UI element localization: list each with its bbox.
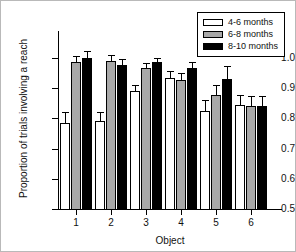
- legend-swatch-icon: [203, 43, 223, 50]
- error-bar-cap: [143, 63, 150, 64]
- bar: [117, 65, 127, 210]
- x-axis-tick-label: 5: [206, 217, 226, 228]
- error-bar-stem: [65, 112, 66, 123]
- bar: [187, 68, 197, 210]
- bar: [106, 61, 116, 210]
- x-axis-tick: [181, 210, 182, 215]
- x-axis-tick-label: 1: [66, 217, 86, 228]
- error-bar-cap: [213, 85, 220, 86]
- error-bar-cap: [248, 106, 255, 107]
- x-axis-tick: [111, 210, 112, 215]
- bar: [222, 79, 232, 210]
- error-bar-cap: [108, 55, 115, 56]
- error-bar-cap: [97, 121, 104, 122]
- bar: [60, 123, 70, 210]
- error-bar-stem: [262, 96, 263, 106]
- legend-item-label: 8-10 months: [228, 42, 278, 51]
- error-bar-cap: [73, 62, 80, 63]
- bar: [211, 95, 221, 210]
- error-bar-stem: [227, 66, 228, 79]
- bar: [200, 111, 210, 210]
- legend-swatch-icon: [203, 31, 223, 38]
- error-bar-cap: [143, 68, 150, 69]
- bar: [246, 106, 256, 210]
- error-bar-cap: [237, 105, 244, 106]
- error-bar-stem: [205, 100, 206, 111]
- legend-item: 6-8 months: [203, 29, 279, 40]
- legend-item: 8-10 months: [203, 41, 279, 52]
- error-bar-cap: [259, 106, 266, 107]
- error-bar-cap: [224, 66, 231, 67]
- error-bar-cap: [119, 65, 126, 66]
- x-axis-tick-label: 4: [171, 217, 191, 228]
- x-axis-title: Object: [58, 235, 282, 246]
- error-bar-cap: [213, 95, 220, 96]
- error-bar-stem: [170, 71, 171, 78]
- error-bar-cap: [119, 59, 126, 60]
- chart-legend: 4-6 months6-8 months8-10 months: [197, 12, 285, 57]
- error-bar-cap: [237, 95, 244, 96]
- bar: [257, 106, 267, 210]
- error-bar-cap: [97, 112, 104, 113]
- legend-item-label: 4-6 months: [228, 18, 273, 27]
- error-bar-cap: [189, 68, 196, 69]
- bar: [71, 62, 81, 210]
- x-axis-tick: [251, 210, 252, 215]
- error-bar-cap: [132, 85, 139, 86]
- legend-swatch-icon: [203, 19, 223, 26]
- error-bar-stem: [100, 112, 101, 121]
- error-bar-cap: [202, 111, 209, 112]
- x-axis-tick: [146, 210, 147, 215]
- bar: [152, 62, 162, 210]
- y-axis-title: Proportion of trials involving a reach: [18, 34, 29, 204]
- bar: [82, 58, 92, 210]
- bar: [141, 68, 151, 210]
- error-bar-cap: [178, 80, 185, 81]
- error-bar-cap: [108, 61, 115, 62]
- error-bar-stem: [181, 73, 182, 80]
- error-bar-cap: [62, 123, 69, 124]
- error-bar-cap: [178, 73, 185, 74]
- error-bar-cap: [84, 51, 91, 52]
- error-bar-cap: [167, 78, 174, 79]
- bar: [95, 121, 105, 210]
- error-bar-stem: [251, 96, 252, 106]
- x-axis-tick-label: 2: [101, 217, 121, 228]
- error-bar-cap: [132, 91, 139, 92]
- plot-area: [58, 31, 281, 210]
- bar-chart-figure: 0.50.60.70.80.91.0 123456 Proportion of …: [0, 0, 296, 252]
- bar: [176, 80, 186, 210]
- x-axis-tick: [216, 210, 217, 215]
- error-bar-cap: [62, 112, 69, 113]
- error-bar-cap: [167, 71, 174, 72]
- error-bar-cap: [189, 62, 196, 63]
- error-bar-cap: [224, 79, 231, 80]
- legend-item: 4-6 months: [203, 17, 279, 28]
- bar: [235, 105, 245, 210]
- x-axis-tick-label: 3: [136, 217, 156, 228]
- error-bar-cap: [202, 100, 209, 101]
- error-bar-cap: [248, 96, 255, 97]
- bar: [165, 78, 175, 210]
- error-bar-cap: [259, 96, 266, 97]
- error-bar-cap: [154, 58, 161, 59]
- x-axis-tick: [76, 210, 77, 215]
- error-bar-cap: [154, 62, 161, 63]
- error-bar-stem: [216, 85, 217, 95]
- bar: [130, 91, 140, 210]
- error-bar-cap: [73, 56, 80, 57]
- x-axis-tick-label: 6: [241, 217, 261, 228]
- error-bar-stem: [240, 95, 241, 105]
- error-bar-cap: [84, 58, 91, 59]
- legend-item-label: 6-8 months: [228, 30, 273, 39]
- error-bar-stem: [87, 51, 88, 58]
